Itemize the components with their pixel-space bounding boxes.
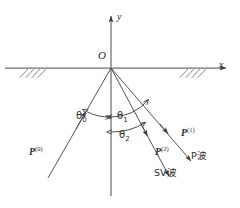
reflected-p-superscript: (1): [187, 126, 195, 133]
reflected-sv-ray-label: P(2): [155, 146, 169, 157]
incident-ray-superscript: (0): [35, 145, 43, 152]
x-axis-label: x: [219, 60, 223, 70]
angle-label-theta0: θ0: [76, 111, 87, 124]
free-surface-hatching-left: [20, 70, 46, 78]
angle-label-theta1: θ1: [117, 111, 128, 124]
sv-wave-label: SV波: [154, 168, 177, 178]
origin-label: O: [98, 50, 106, 61]
theta2-subscript: 2: [125, 135, 129, 143]
reflected-p-ray-label: P(1): [181, 127, 195, 138]
theta0-subscript: 0: [82, 116, 86, 124]
incident-ray-label: P(0): [29, 146, 43, 157]
ray-diagram: x y O θ0 θ1 θ2 P(0) P(1) P(2) P波 SV波: [0, 0, 240, 208]
p-wave-label: P波: [191, 151, 207, 161]
theta1-subscript: 1: [123, 116, 127, 124]
y-axis-label: y: [117, 12, 121, 22]
angle-arc-theta0: [87, 112, 112, 118]
free-surface-hatching-right: [180, 70, 206, 78]
reflected-sv-superscript: (2): [161, 145, 169, 152]
angle-label-theta2: θ2: [119, 130, 130, 143]
diagram-canvas: [0, 0, 240, 208]
